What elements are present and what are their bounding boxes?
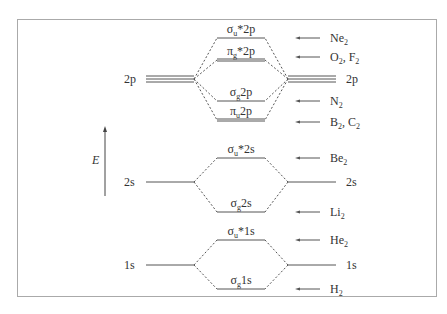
ao-label-left-2s: 2s — [124, 175, 135, 189]
mo-label-sigma_u_star_2s: σu*2s — [227, 142, 254, 158]
mo-diagram: E 2p2s1s 2p2s1s σu*2pπg*2pσg2pπu2pσu*2sσ… — [0, 0, 447, 314]
molecule-label: O2, F2 — [330, 50, 359, 66]
mo-label-pi_u_2p: πu2p — [230, 104, 252, 120]
mo-label-sigma_g_2p: σg2p — [230, 85, 252, 101]
mo-label-sigma_g_2s: σg2s — [230, 196, 251, 212]
mo-label-pi_g_star_2p: πg*2p — [227, 44, 255, 60]
mo-label-sigma_u_star_1s: σu*1s — [227, 224, 254, 240]
energy-axis-label: E — [91, 153, 100, 167]
ao-label-left-2p: 2p — [124, 72, 136, 86]
mo-label-sigma_u_star_2p: σu*2p — [227, 22, 255, 38]
ao-label-right-1s: 1s — [346, 258, 357, 272]
ao-label-left-1s: 1s — [124, 258, 135, 272]
mo-label-sigma_g_1s: σg1s — [230, 273, 251, 289]
molecule-label: B2, C2 — [330, 115, 360, 131]
ao-label-right-2p: 2p — [346, 72, 358, 86]
ao-label-right-2s: 2s — [346, 175, 357, 189]
